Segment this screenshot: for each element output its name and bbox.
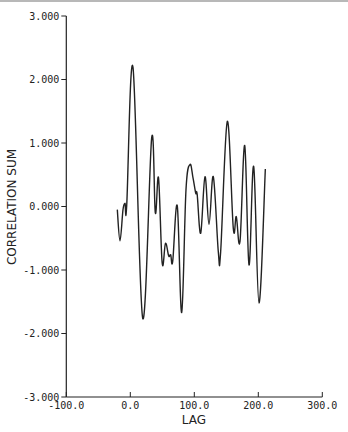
y-tick-label: 3.000 (29, 11, 59, 22)
correlation-chart: 3.0002.0001.0000.000-1.000-2.000-3.000 -… (0, 0, 348, 432)
y-tick-label: 1.000 (29, 138, 59, 149)
x-tick-label: 200.0 (243, 400, 273, 411)
x-tick-label: -100.0 (48, 400, 84, 411)
y-axis-label: CORRELATION SUM (5, 149, 19, 265)
x-axis-ticks: -100.00.0100.0200.0300.0 (48, 392, 337, 411)
y-tick-label: -2.000 (23, 328, 59, 339)
x-axis-label: LAG (182, 413, 206, 427)
y-axis-ticks: 3.0002.0001.0000.000-1.000-2.000-3.000 (23, 11, 66, 403)
y-tick-label: 2.000 (29, 74, 59, 85)
y-tick-label: 0.000 (29, 201, 59, 212)
y-tick-label: -1.000 (23, 265, 59, 276)
x-tick-label: 300.0 (307, 400, 337, 411)
axes (66, 16, 322, 397)
x-tick-label: 100.0 (179, 400, 209, 411)
correlation-curve (117, 65, 265, 319)
x-tick-label: 0.0 (121, 400, 139, 411)
